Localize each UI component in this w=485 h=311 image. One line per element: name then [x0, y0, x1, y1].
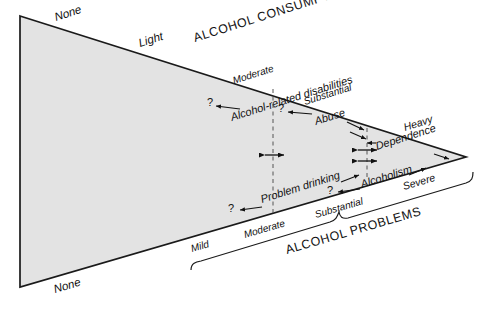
top-axis-title: ALCOHOL CONSUMPTION: [192, 0, 355, 45]
uncertainty-marker-upper-mid: ?: [278, 102, 284, 114]
uncertainty-marker-lower-mid: ?: [327, 184, 333, 196]
bottom-axis-title: ALCOHOL PROBLEMS: [284, 204, 423, 257]
uncertainty-marker-upper-left: ?: [207, 96, 213, 108]
consumption-label-none: None: [53, 3, 83, 23]
alcohol-triangle-diagram: None Light Moderate Substantial Heavy AL…: [0, 0, 485, 311]
consumption-label-light: Light: [137, 30, 165, 49]
wedge-shape: [20, 16, 466, 287]
consumption-label-moderate: Moderate: [231, 63, 275, 86]
problems-label-mild: Mild: [189, 238, 210, 254]
figure-canvas: None Light Moderate Substantial Heavy AL…: [0, 0, 485, 311]
uncertainty-marker-lower-left: ?: [228, 202, 234, 214]
baseline-label-none-bottom: None: [52, 276, 82, 295]
